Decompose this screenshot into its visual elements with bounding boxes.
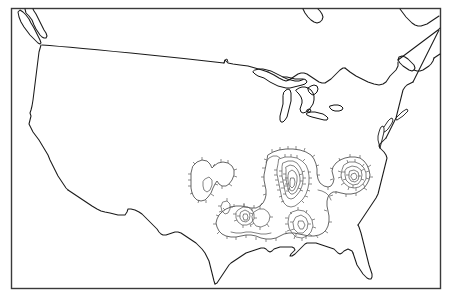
nova-scotia [398, 28, 440, 60]
figure-frame [12, 9, 441, 289]
contour-gulf-ring-2 [293, 215, 308, 233]
contour-gulf-hatches [285, 207, 316, 241]
pacific-northwest-coast [25, 9, 47, 38]
contour-carolina-ring-3 [349, 170, 359, 182]
map-canvas [0, 0, 462, 301]
contour-arklatx-ring-3 [243, 214, 248, 220]
lake-michigan [280, 89, 291, 122]
contour-transition-midwest [266, 156, 280, 162]
gulf-coast-western [215, 243, 353, 284]
contour-map-figure [0, 0, 462, 301]
contour-carolina-ring-4 [351, 173, 357, 180]
chesapeake-bay [378, 126, 384, 148]
great-lakes-group [253, 69, 343, 122]
mexico-border [68, 190, 215, 284]
atlantic-coast-south [358, 138, 387, 225]
lake-ontario [330, 105, 343, 111]
maine-coast [413, 30, 439, 82]
canada-border-49th [42, 45, 268, 72]
contour-transition-lower [231, 232, 271, 234]
contour-central-ring-5 [290, 178, 295, 188]
mid-atlantic-coast [386, 82, 413, 138]
lake-erie [307, 112, 328, 120]
contour-group [188, 146, 373, 242]
gaspe-peninsula [434, 54, 440, 58]
st-lawrence-inlet [345, 62, 398, 85]
anticosti-coast [400, 9, 439, 26]
contour-carolina-ring-2 [345, 166, 362, 185]
pacific-coast [29, 45, 68, 190]
vancouver-island [18, 10, 41, 44]
contour-carolina-hatches [338, 159, 369, 191]
contour-plains-ring-2 [203, 177, 212, 192]
lake-huron [296, 87, 314, 113]
labrador-coast [303, 9, 323, 23]
delmarva-peninsula [384, 118, 393, 132]
contour-gulf-ring-3 [298, 221, 305, 229]
florida-peninsula [353, 225, 372, 279]
coastline-group [18, 9, 440, 284]
